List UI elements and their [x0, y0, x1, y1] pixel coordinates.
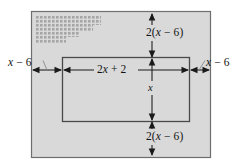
top-border-label-lead: 2(	[146, 26, 156, 38]
bottom-border-label-lead: 2(	[146, 130, 156, 142]
inner-width-label-middle: + 2	[108, 63, 126, 75]
top-border-label-middle: − 6)	[161, 26, 183, 38]
left-border-label: x − 6	[8, 57, 32, 69]
bottom-border-label-middle: − 6)	[161, 130, 183, 142]
right-border-label: x − 6	[206, 57, 230, 69]
geometry-figure: 2(x − 6) 2(x − 6) x − 6 x − 6 2x + 2 x	[0, 0, 242, 168]
figure-canvas	[0, 0, 242, 168]
right-border-label-middle: − 6	[211, 56, 229, 68]
inner-height-label-variable: x	[148, 82, 153, 93]
bottom-border-label: 2(x − 6)	[146, 131, 183, 143]
top-border-label: 2(x − 6)	[146, 27, 183, 39]
inner-height-label: x	[148, 83, 153, 94]
inner-width-label: 2x + 2	[97, 64, 126, 76]
left-border-label-middle: − 6	[13, 56, 31, 68]
